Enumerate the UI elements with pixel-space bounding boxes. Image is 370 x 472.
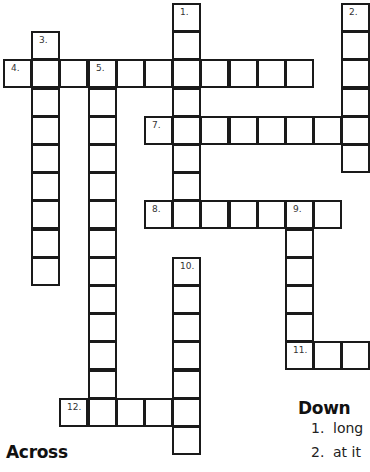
crossword-cell[interactable] [285,257,314,286]
crossword-cell[interactable] [229,116,258,145]
crossword-cell[interactable]: 8. [144,200,173,229]
clue-number-label: 11. [293,345,307,355]
crossword-cell[interactable]: 5. [88,59,117,88]
down-clue-1: 1.long [311,420,363,436]
crossword-cell[interactable] [285,116,314,145]
crossword-cell[interactable] [285,313,314,342]
crossword-cell[interactable] [257,59,286,88]
clue-number-label: 1. [180,7,189,17]
crossword-cell[interactable] [88,341,117,370]
crossword-cell[interactable] [172,144,201,173]
crossword-cell[interactable]: 2. [341,3,370,32]
crossword-cell[interactable] [88,172,117,201]
crossword-cell[interactable] [341,59,370,88]
crossword-cell[interactable] [31,144,60,173]
down-clue-2: 2.at it [311,444,361,460]
crossword-cell[interactable] [229,59,258,88]
crossword-cell[interactable] [116,59,145,88]
clue-number-label: 12. [67,402,81,412]
crossword-cell[interactable] [144,59,173,88]
crossword-cell[interactable] [88,370,117,399]
crossword-cell[interactable] [172,88,201,117]
crossword-cell[interactable] [88,200,117,229]
crossword-cell[interactable] [59,59,88,88]
crossword-cell[interactable] [341,88,370,117]
across-heading: Across [6,442,68,462]
crossword-cell[interactable]: 7. [144,116,173,145]
crossword-cell[interactable] [341,341,370,370]
crossword-cell[interactable]: 9. [285,200,314,229]
clue-number-label: 4. [11,63,20,73]
crossword-cell[interactable]: 11. [285,341,314,370]
crossword-cell[interactable] [257,116,286,145]
crossword-cell[interactable] [31,88,60,117]
crossword-cell[interactable] [144,398,173,427]
crossword-cell[interactable] [200,200,229,229]
crossword-cell[interactable] [200,59,229,88]
crossword-cell[interactable] [88,257,117,286]
clue-number-label: 3. [39,35,48,45]
crossword-cell[interactable] [257,200,286,229]
crossword-cell[interactable] [88,285,117,314]
crossword-cell[interactable] [116,398,145,427]
clue-number-label: 2. [349,7,358,17]
crossword-cell[interactable] [88,313,117,342]
clue-number: 1. [311,420,333,436]
crossword-cell[interactable] [341,116,370,145]
crossword-cell[interactable] [341,31,370,60]
crossword-cell[interactable] [31,59,60,88]
crossword-cell[interactable] [31,116,60,145]
crossword-cell[interactable] [88,88,117,117]
crossword-cell[interactable] [313,341,342,370]
crossword-cell[interactable] [341,144,370,173]
crossword-cell[interactable] [172,370,201,399]
crossword-cell[interactable] [172,285,201,314]
crossword-cell[interactable] [88,116,117,145]
crossword-cell[interactable] [172,172,201,201]
down-heading: Down [298,398,350,418]
crossword-cell[interactable] [285,285,314,314]
crossword-cell[interactable] [88,398,117,427]
crossword-cell[interactable] [172,313,201,342]
crossword-cell[interactable] [172,59,201,88]
crossword-cell[interactable] [31,257,60,286]
crossword-cell[interactable]: 10. [172,257,201,286]
crossword-cell[interactable] [172,31,201,60]
crossword-cell[interactable] [172,426,201,455]
crossword-cell[interactable]: 12. [59,398,88,427]
crossword-cell[interactable] [172,200,201,229]
crossword-cell[interactable] [31,200,60,229]
crossword-cell[interactable] [172,398,201,427]
crossword-cell[interactable] [200,116,229,145]
crossword-cell[interactable] [88,144,117,173]
clue-text: long [333,420,363,436]
crossword-cell[interactable]: 1. [172,3,201,32]
clue-number-label: 10. [180,261,194,271]
clue-text: at it [333,444,361,460]
clue-number-label: 9. [293,204,302,214]
crossword-cell[interactable]: 3. [31,31,60,60]
clue-number: 2. [311,444,333,460]
crossword-cell[interactable] [285,229,314,258]
crossword-cell[interactable] [172,341,201,370]
crossword-cell[interactable] [172,116,201,145]
clue-number-label: 5. [96,63,105,73]
crossword-cell[interactable] [285,59,314,88]
crossword-cell[interactable] [31,172,60,201]
crossword-cell[interactable] [88,229,117,258]
clue-number-label: 7. [152,120,161,130]
clue-number-label: 8. [152,204,161,214]
crossword-cell[interactable] [313,200,342,229]
crossword-cell[interactable] [31,229,60,258]
crossword-cell[interactable] [313,116,342,145]
crossword-cell[interactable]: 4. [3,59,32,88]
crossword-cell[interactable] [229,200,258,229]
